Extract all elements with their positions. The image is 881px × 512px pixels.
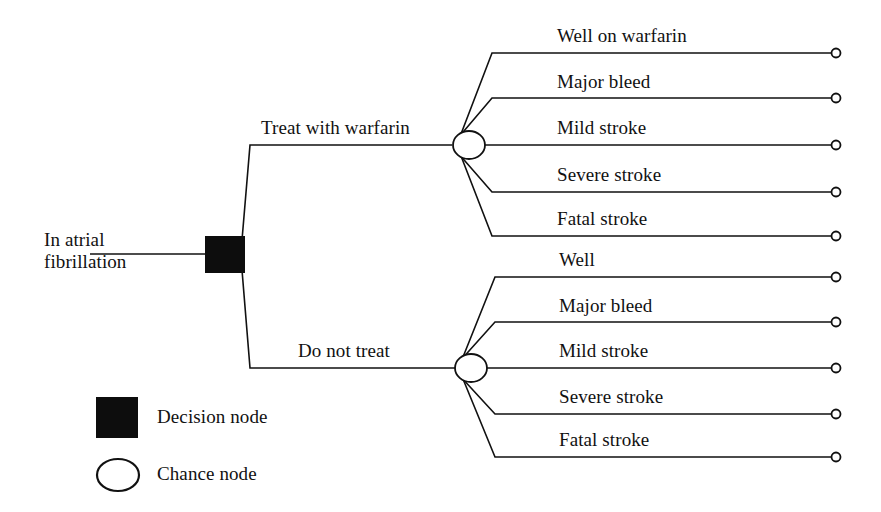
legend-decision-node-symbol [96,397,138,438]
legend-label-chance-node: Chance node [157,463,257,485]
terminal-node-severe-stroke-treated[interactable] [832,188,841,197]
outcome-label-fatal-stroke-treated: Fatal stroke [557,208,647,230]
terminal-node-well-on-warfarin[interactable] [832,49,841,58]
outcome-label-major-bleed-untreated: Major bleed [559,295,652,317]
outcome-label-well-untreated: Well [559,249,595,271]
terminal-node-mild-stroke-untreated[interactable] [832,364,841,373]
terminal-node-mild-stroke-treated[interactable] [832,141,841,150]
terminal-node-fatal-stroke-untreated[interactable] [832,453,841,462]
terminal-node-severe-stroke-untreated[interactable] [832,410,841,419]
legend-label-decision-node: Decision node [157,406,268,428]
outcome-label-fatal-stroke-untreated: Fatal stroke [559,429,649,451]
outcome-label-mild-stroke-untreated: Mild stroke [559,340,648,362]
root-label-line2: fibrillation [44,251,194,273]
outcome-label-severe-stroke-untreated: Severe stroke [559,386,663,408]
legend-chance-node-symbol [97,459,139,491]
outcome-label-severe-stroke-treated: Severe stroke [557,164,661,186]
branch-label-treat-with-warfarin: Treat with warfarin [261,117,410,139]
outcome-line-well-on-warfarin[interactable] [461,53,833,134]
terminal-node-well-untreated[interactable] [832,273,841,282]
decision-node[interactable] [205,236,245,273]
root-label-line1: In atrial [44,229,194,251]
chance-node-treated[interactable] [453,131,485,159]
decision-tree-diagram: In atrial fibrillation Treat with warfar… [0,0,881,512]
outcome-label-mild-stroke-treated: Mild stroke [557,117,646,139]
chance-node-untreated[interactable] [455,354,487,382]
terminal-node-major-bleed-untreated[interactable] [832,318,841,327]
branch-label-do-not-treat: Do not treat [298,340,390,362]
outcome-label-major-bleed-treated: Major bleed [557,71,650,93]
branch-treat-with-warfarin[interactable] [242,145,452,240]
terminal-node-fatal-stroke-treated[interactable] [832,232,841,241]
terminal-node-major-bleed-treated[interactable] [832,94,841,103]
root-label: In atrial fibrillation [44,229,194,273]
outcome-label-well-on-warfarin: Well on warfarin [557,25,687,47]
